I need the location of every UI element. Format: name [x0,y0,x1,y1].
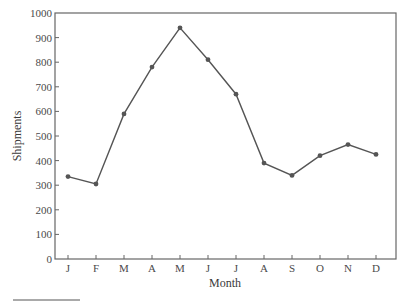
data-point-marker [206,57,211,62]
y-tick-label: 900 [36,32,53,44]
y-axis-title: Shipments [10,110,24,161]
shipments-series-markers [66,25,379,186]
shipments-series-line [68,28,376,184]
x-tick-label: N [344,262,352,274]
data-point-marker [346,142,351,147]
data-point-marker [262,161,267,166]
x-tick-label: M [175,262,185,274]
shipments-line-chart: 01002003004005006007008009001000 JFMAMJJ… [0,0,406,302]
x-tick-label: D [372,262,380,274]
x-tick-label: F [93,262,99,274]
y-tick-label: 300 [36,179,53,191]
data-point-marker [66,174,71,179]
y-tick-label: 500 [36,130,53,142]
data-point-marker [290,173,295,178]
y-tick-label: 600 [36,105,53,117]
y-tick-label: 100 [36,228,53,240]
data-point-marker [122,112,127,117]
y-tick-label: 1000 [30,7,53,19]
x-tick-label: A [260,262,268,274]
y-tick-label: 400 [36,155,53,167]
x-axis-ticks: JFMAMJJASOND [66,255,380,274]
y-tick-label: 700 [36,81,53,93]
x-tick-label: S [289,262,295,274]
data-point-marker [318,153,323,158]
x-tick-label: J [234,262,239,274]
y-tick-label: 0 [47,253,53,265]
y-tick-label: 800 [36,56,53,68]
x-tick-label: J [66,262,71,274]
x-tick-label: M [119,262,129,274]
data-point-marker [150,65,155,70]
data-point-marker [178,25,183,30]
x-tick-label: J [206,262,211,274]
x-axis-title: Month [209,276,241,290]
data-point-marker [234,92,239,97]
plot-frame [55,13,396,259]
x-tick-label: A [148,262,156,274]
y-tick-label: 200 [36,204,53,216]
data-point-marker [374,152,379,157]
data-point-marker [94,182,99,187]
x-tick-label: O [316,262,324,274]
